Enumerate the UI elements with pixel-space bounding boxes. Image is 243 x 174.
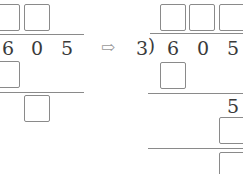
right-remainder-box[interactable] bbox=[219, 152, 243, 174]
left-product-box[interactable] bbox=[0, 61, 20, 88]
right-quotient-box-2[interactable] bbox=[189, 4, 215, 31]
right-dividend-digit-2: 0 bbox=[197, 38, 209, 58]
left-dividend-digit-1: 6 bbox=[2, 38, 14, 58]
right-dividend-digit-1: 6 bbox=[167, 38, 179, 58]
left-dividend-digit-2: 0 bbox=[31, 38, 43, 58]
left-division-bar bbox=[0, 34, 84, 35]
double-right-arrow-icon: ⇨ bbox=[101, 37, 115, 57]
division-bracket: ) bbox=[148, 36, 155, 56]
left-quotient-box-2[interactable] bbox=[24, 4, 50, 31]
left-remainder-box[interactable] bbox=[24, 95, 50, 122]
right-subtraction-line-1 bbox=[148, 93, 243, 94]
right-product-box-1[interactable] bbox=[160, 62, 186, 89]
divisor: 3 bbox=[136, 38, 148, 58]
right-quotient-box-3[interactable] bbox=[219, 4, 243, 31]
right-subtraction-line-2 bbox=[148, 148, 243, 149]
right-division-bar bbox=[150, 33, 243, 34]
right-dividend-digit-3: 5 bbox=[227, 38, 239, 58]
right-quotient-box-1[interactable] bbox=[160, 4, 186, 31]
right-product-box-2[interactable] bbox=[219, 117, 243, 144]
left-quotient-box-1[interactable] bbox=[0, 4, 20, 31]
left-subtraction-line bbox=[0, 92, 84, 93]
left-dividend-digit-3: 5 bbox=[61, 38, 73, 58]
brought-down-digit: 5 bbox=[227, 96, 239, 116]
